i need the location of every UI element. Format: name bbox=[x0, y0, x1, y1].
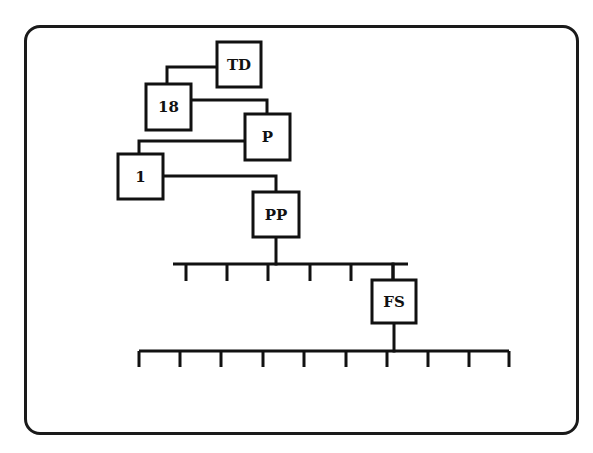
node-label: P bbox=[262, 128, 273, 146]
edge-1-pp bbox=[163, 176, 276, 192]
bus-1 bbox=[173, 264, 408, 281]
node-pp: PP bbox=[253, 192, 299, 237]
node-18: 18 bbox=[146, 84, 191, 130]
node-label: 1 bbox=[135, 168, 145, 186]
node-label: TD bbox=[227, 56, 251, 74]
bus-2 bbox=[139, 351, 509, 367]
edge-18-p bbox=[191, 100, 267, 114]
edge-18-td bbox=[167, 67, 217, 84]
node-label: FS bbox=[383, 293, 404, 311]
node-td: TD bbox=[217, 42, 261, 87]
node-p: P bbox=[245, 114, 290, 160]
node-fs: FS bbox=[372, 280, 416, 323]
node-label: PP bbox=[265, 206, 288, 224]
node-label: 18 bbox=[158, 98, 179, 116]
buses bbox=[139, 264, 509, 367]
node-1: 1 bbox=[118, 154, 163, 199]
hierarchy-diagram: TD18P1PPFS bbox=[0, 0, 593, 453]
edge-1-p bbox=[139, 141, 245, 154]
